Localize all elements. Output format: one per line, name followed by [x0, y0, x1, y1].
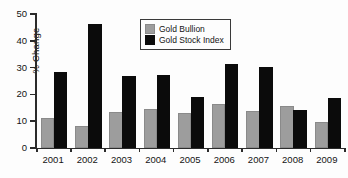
- x-axis-tick-label: 2009: [310, 154, 344, 165]
- y-axis-tick-label: 0: [5, 142, 27, 153]
- bar-chart: % Change 01020304050 2001200220032004200…: [0, 0, 348, 178]
- y-axis-tick: [30, 147, 35, 149]
- bar-gold-bullion-2001: [41, 118, 55, 148]
- x-axis-tick: [344, 148, 346, 152]
- y-axis-tick: [30, 13, 35, 15]
- x-axis-tick: [241, 148, 243, 152]
- bar-gold-stock-index-2004: [157, 75, 171, 148]
- x-axis-tick: [139, 148, 141, 152]
- bar-gold-stock-index-2001: [54, 72, 68, 148]
- bar-gold-bullion-2004: [144, 109, 158, 148]
- bar-gold-bullion-2002: [75, 126, 89, 148]
- x-axis-tick: [70, 148, 72, 152]
- x-axis-tick-label: 2005: [173, 154, 207, 165]
- bar-gold-stock-index-2008: [293, 110, 307, 148]
- x-axis-tick-label: 2001: [36, 154, 70, 165]
- bar-gold-bullion-2006: [212, 104, 226, 148]
- y-axis-tick: [30, 120, 35, 122]
- x-axis-tick: [173, 148, 175, 152]
- bar-gold-stock-index-2007: [259, 67, 273, 148]
- x-axis-tick: [276, 148, 278, 152]
- legend-item: Gold Stock Index: [145, 35, 224, 45]
- x-axis-tick-label: 2002: [70, 154, 104, 165]
- x-axis-tick: [207, 148, 209, 152]
- legend-item-label: Gold Bullion: [159, 25, 205, 34]
- bar-gold-bullion-2003: [109, 112, 123, 148]
- x-axis-tick: [310, 148, 312, 152]
- bar-gold-bullion-2009: [315, 122, 329, 148]
- y-axis-tick: [30, 40, 35, 42]
- x-axis-tick: [104, 148, 106, 152]
- bar-gold-stock-index-2003: [122, 76, 136, 148]
- bar-gold-bullion-2005: [178, 113, 192, 148]
- bar-gold-stock-index-2002: [88, 24, 102, 148]
- bar-gold-bullion-2007: [246, 111, 260, 148]
- legend-item: Gold Bullion: [145, 24, 224, 34]
- x-axis-tick-label: 2003: [104, 154, 138, 165]
- y-axis-tick-label: 40: [5, 35, 27, 46]
- bar-gold-stock-index-2009: [328, 98, 342, 148]
- legend-item-label: Gold Stock Index: [159, 36, 224, 45]
- x-axis-tick-label: 2007: [241, 154, 275, 165]
- y-axis-tick: [30, 67, 35, 69]
- y-axis-tick-label: 50: [5, 8, 27, 19]
- y-axis-tick-label: 30: [5, 62, 27, 73]
- legend-swatch-icon: [145, 24, 155, 34]
- y-axis-tick-label: 10: [5, 115, 27, 126]
- bar-gold-bullion-2008: [280, 106, 294, 148]
- x-axis-tick-label: 2004: [139, 154, 173, 165]
- x-axis-tick: [36, 148, 38, 152]
- x-axis-tick-label: 2008: [276, 154, 310, 165]
- bar-gold-stock-index-2005: [191, 97, 205, 148]
- y-axis-tick-label: 20: [5, 88, 27, 99]
- chart-legend: Gold BullionGold Stock Index: [140, 19, 231, 50]
- legend-swatch-icon: [145, 35, 155, 45]
- x-axis-tick-label: 2006: [207, 154, 241, 165]
- y-axis-tick: [30, 94, 35, 96]
- bar-gold-stock-index-2006: [225, 64, 239, 148]
